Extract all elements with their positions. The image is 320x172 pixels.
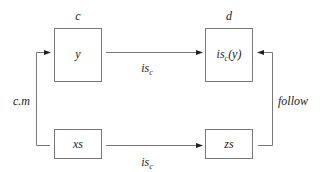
diagram-canvas: c d y isc(y) xs zs isc isc c.m follow: [0, 0, 320, 172]
edge-top-label: isc: [141, 61, 153, 77]
arrowhead-icon: [257, 50, 264, 55]
arrowhead-icon: [44, 50, 51, 55]
edge-right-label: follow: [278, 94, 308, 108]
edge-zs-to-isc-y: [258, 53, 273, 146]
node-isc-y-header: d: [226, 9, 233, 23]
edge-bottom-label: isc: [141, 155, 153, 171]
node-isc-y-label: isc(y): [217, 47, 242, 63]
node-y-header: c: [75, 9, 81, 23]
arrowhead-icon: [196, 143, 203, 148]
node-xs-label: xs: [72, 137, 83, 151]
node-zs-label: zs: [223, 137, 234, 151]
edge-xs-to-y: [37, 53, 51, 146]
node-y-label: y: [74, 47, 81, 61]
edge-left-label: c.m: [13, 94, 30, 108]
arrowhead-icon: [196, 50, 203, 55]
